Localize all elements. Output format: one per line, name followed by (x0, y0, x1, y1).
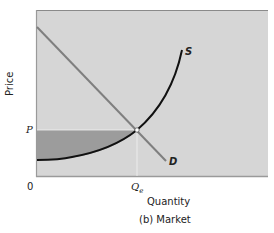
equilibrium-point (135, 128, 139, 132)
supply-curve-label: S (185, 47, 192, 57)
supply-demand-chart: Price P 0 Qe S D Quantity (b) Market (0, 0, 274, 233)
y-axis-label: Price (4, 72, 15, 96)
chart-caption: (b) Market (139, 215, 191, 225)
qty-tick-main: Q (131, 181, 139, 192)
price-tick-label: P (26, 125, 33, 135)
demand-curve-label: D (169, 157, 177, 167)
origin-label: 0 (27, 182, 33, 192)
qty-tick-sub: e (139, 187, 143, 195)
equilibrium-quantity-label: Qe (131, 182, 143, 195)
x-axis-label: Quantity (147, 197, 190, 207)
chart-canvas (0, 0, 274, 233)
